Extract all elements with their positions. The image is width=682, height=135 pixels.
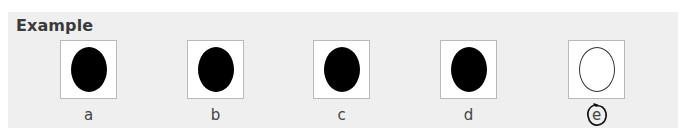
- example-panel: Example a b c d e: [8, 12, 678, 128]
- option-label: b: [187, 106, 244, 124]
- hand-drawn-circle-icon: [584, 102, 610, 128]
- empty-oval-icon: [579, 47, 615, 92]
- filled-oval-icon: [198, 47, 234, 92]
- example-title: Example: [16, 16, 93, 35]
- option-box: [313, 40, 370, 99]
- option-label: c: [313, 106, 370, 124]
- filled-oval-icon: [451, 47, 487, 92]
- option-label: d: [440, 106, 497, 124]
- option-box: [440, 40, 497, 99]
- option-box: [187, 40, 244, 99]
- option-box: [60, 40, 117, 99]
- option-box: [568, 40, 625, 99]
- option-label: a: [60, 106, 117, 124]
- filled-oval-icon: [324, 47, 360, 92]
- filled-oval-icon: [71, 47, 107, 92]
